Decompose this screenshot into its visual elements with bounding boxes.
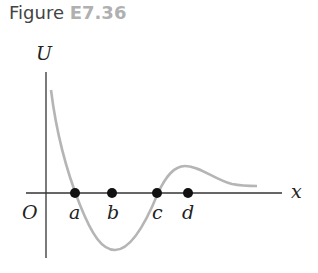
x-axis-label: x [291, 180, 302, 202]
point-d [183, 188, 193, 198]
potential-curve [51, 90, 257, 250]
label-d: d [182, 201, 194, 223]
label-c: c [152, 201, 163, 223]
y-axis-label: U [36, 42, 53, 64]
origin-label: O [22, 201, 38, 223]
point-c [152, 188, 162, 198]
label-a: a [69, 201, 80, 223]
point-a [70, 188, 80, 198]
point-b [107, 188, 117, 198]
label-b: b [107, 201, 119, 223]
potential-energy-diagram: U x O a b c d [0, 0, 318, 273]
